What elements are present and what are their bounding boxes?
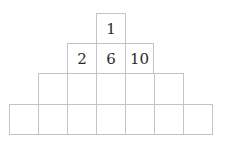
pyramid-cell-r3-c2: [67, 73, 97, 105]
pyramid-cell-r3-c1: [38, 73, 68, 105]
pyramid-cell-r3-c5: [154, 73, 184, 105]
pyramid-cell-r4-c2: [38, 104, 68, 135]
pyramid-cell-r4-c5: [125, 104, 155, 135]
pyramid-cell-r4-c6: [154, 104, 184, 135]
pyramid-cell-r4-c1: [9, 104, 39, 135]
pyramid-cell-r2-c1: 2: [67, 43, 97, 74]
pyramid-cell-r3-c3: [96, 73, 126, 105]
pyramid-cell-r2-c2: 6: [96, 43, 126, 74]
pyramid-cell-r3-c4: [125, 73, 155, 105]
pyramid-cell-r1-c1: 1: [96, 13, 126, 44]
pyramid-cell-r4-c7: [183, 104, 213, 135]
number-pyramid: 1 2 6 10: [0, 0, 226, 142]
pyramid-cell-r2-c3: 10: [125, 43, 154, 74]
pyramid-cell-r4-c3: [67, 104, 97, 135]
pyramid-cell-r4-c4: [96, 104, 126, 135]
